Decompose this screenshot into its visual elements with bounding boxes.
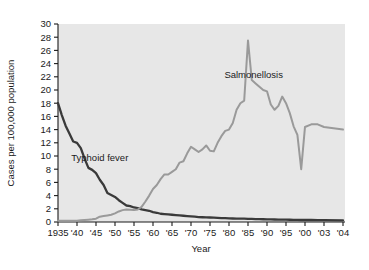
- x-tick-label: '85: [242, 227, 254, 238]
- x-tick-label: '65: [166, 227, 178, 238]
- y-tick-label: 12: [40, 137, 51, 148]
- y-tick-label: 18: [40, 98, 51, 109]
- y-tick-label: 0: [46, 216, 51, 227]
- figure-container: 024681012141618202224262830 1935'40'45'5…: [0, 0, 369, 270]
- line-chart: 024681012141618202224262830 1935'40'45'5…: [0, 0, 369, 270]
- y-tick-label: 28: [40, 32, 51, 43]
- y-tick-label: 24: [40, 58, 51, 69]
- y-tick-label: 4: [46, 190, 51, 201]
- x-tick-label: '75: [204, 227, 216, 238]
- x-axis-title: Year: [191, 243, 210, 254]
- annotation-typhoid-fever: Typhoid fever: [71, 152, 128, 163]
- x-tick-label: '03: [318, 227, 330, 238]
- x-axis-tick-labels: 1935'40'45'50'55'60'65'70'75'80'85'90'95…: [47, 227, 349, 238]
- y-axis-ticks: [54, 24, 58, 222]
- x-tick-label: '45: [90, 227, 102, 238]
- annotation-salmonellosis: Salmonellosis: [224, 69, 283, 80]
- x-tick-label: '40: [71, 227, 83, 238]
- x-tick-label: '00: [299, 227, 311, 238]
- x-tick-label: '95: [280, 227, 292, 238]
- x-tick-label: 1935: [47, 227, 68, 238]
- x-tick-label: '50: [109, 227, 121, 238]
- y-axis-title: Cases per 100,000 population: [5, 60, 16, 187]
- x-tick-label: '60: [147, 227, 159, 238]
- y-tick-label: 14: [40, 124, 51, 135]
- x-tick-label: '70: [185, 227, 197, 238]
- y-tick-label: 2: [46, 203, 51, 214]
- y-tick-label: 22: [40, 71, 51, 82]
- y-tick-label: 10: [40, 150, 51, 161]
- y-axis-tick-labels: 024681012141618202224262830: [40, 18, 51, 227]
- x-tick-label: '55: [128, 227, 140, 238]
- plot-background: [58, 24, 345, 222]
- x-tick-label: '04: [337, 227, 349, 238]
- y-tick-label: 6: [46, 177, 51, 188]
- x-axis-ticks: [58, 222, 343, 226]
- y-tick-label: 16: [40, 111, 51, 122]
- y-tick-label: 30: [40, 18, 51, 29]
- y-tick-label: 26: [40, 45, 51, 56]
- y-tick-label: 8: [46, 164, 51, 175]
- x-tick-label: '80: [223, 227, 235, 238]
- x-tick-label: '90: [261, 227, 273, 238]
- y-tick-label: 20: [40, 84, 51, 95]
